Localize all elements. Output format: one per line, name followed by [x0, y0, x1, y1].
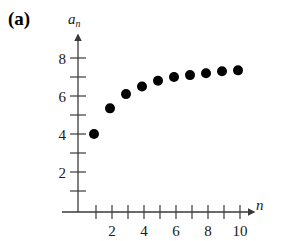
- y-tick-label-4: 4: [59, 127, 67, 143]
- y-tick-label-8: 8: [59, 51, 67, 67]
- data-point: [121, 89, 131, 99]
- data-point: [153, 76, 163, 86]
- data-point: [89, 129, 99, 139]
- data-point: [105, 103, 115, 113]
- y-tick-label-6: 6: [59, 89, 67, 105]
- data-point-group: [89, 65, 243, 139]
- data-point: [217, 66, 227, 76]
- scatter-plot: 2 4 6 8 2 4 6 8 10: [0, 0, 283, 241]
- data-point: [137, 82, 147, 92]
- x-tick-label-2: 2: [108, 223, 116, 239]
- data-point: [169, 72, 179, 82]
- figure-panel: (a) an n: [0, 0, 283, 241]
- y-tick-label-2: 2: [59, 165, 67, 181]
- x-tick-label-10: 10: [233, 223, 248, 239]
- x-tick-label-8: 8: [204, 223, 212, 239]
- data-point: [233, 65, 243, 75]
- x-tick-label-6: 6: [172, 223, 180, 239]
- data-point: [185, 70, 195, 80]
- y-tick-labels: 2 4 6 8: [59, 51, 67, 181]
- data-point: [201, 68, 211, 78]
- x-tick-labels: 2 4 6 8 10: [108, 223, 247, 239]
- x-tick-label-4: 4: [140, 223, 148, 239]
